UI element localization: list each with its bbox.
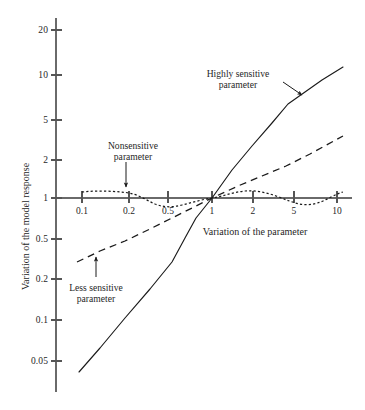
y-axis-title: Variation of the model response: [20, 163, 31, 290]
y-tick-label-5: 5: [12, 115, 48, 125]
y-tick-label-20: 20: [12, 25, 48, 35]
annotation-nonsensitive-line2: parameter: [108, 151, 158, 162]
x-tick-label-2: 2: [251, 206, 256, 216]
annotation-nonsensitive-line1: Nonsensitive: [108, 140, 158, 151]
x-tick-label-0p2: 0.2: [123, 206, 135, 216]
x-tick-label-0p5: 0.5: [162, 206, 174, 216]
chart-canvas: [0, 0, 365, 410]
annotation-highly-sensitive-line2: parameter: [207, 79, 270, 90]
x-tick-label-1: 1: [210, 206, 215, 216]
y-tick-label-0p1: 0.1: [12, 315, 48, 325]
annotation-less-sensitive: Less sensitive parameter: [69, 282, 123, 305]
annotation-nonsensitive: Nonsensitive parameter: [108, 140, 158, 163]
x-tick-label-5: 5: [292, 206, 297, 216]
annotation-highly-sensitive: Highly sensitive parameter: [207, 68, 270, 91]
annotation-less-sensitive-line2: parameter: [69, 293, 123, 304]
y-tick-label-0p05: 0.05: [8, 356, 48, 366]
annotation-less-sensitive-line1: Less sensitive: [69, 282, 123, 293]
x-tick-label-0p1: 0.1: [76, 206, 88, 216]
annotation-highly-sensitive-line1: Highly sensitive: [207, 68, 270, 79]
series-highly-sensitive-parameter: [79, 67, 343, 372]
annotation-arrow-highly-sensitive: [283, 82, 302, 95]
x-tick-label-10: 10: [332, 206, 342, 216]
y-tick-label-10: 10: [12, 70, 48, 80]
sensitivity-analysis-chart: 20 10 5 2 1 0.5 0.2 0.1 0.05 0.1 0.2 0.5…: [0, 0, 365, 410]
x-axis-title: Variation of the parameter: [203, 226, 308, 237]
